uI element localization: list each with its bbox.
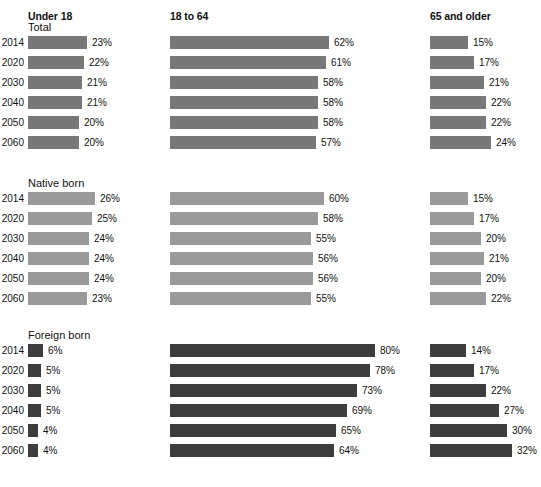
bar-value-native-born-18-to-64-2060: 55% — [316, 293, 336, 304]
bar-value-total-65-and-older-2060: 24% — [496, 137, 516, 148]
bar-foreign-born-under-18-2040 — [28, 404, 41, 417]
bar-native-born-18-to-64-2040 — [170, 252, 313, 265]
group-label-total: Total — [28, 21, 51, 33]
group-label-foreign-born: Foreign born — [28, 329, 90, 341]
year-label-foreign-born-2020: 2020 — [0, 365, 24, 376]
year-label-foreign-born-2030: 2030 — [0, 385, 24, 396]
bar-value-foreign-born-65-and-older-2050: 30% — [512, 425, 532, 436]
bar-native-born-under-18-2050 — [28, 272, 89, 285]
population-age-distribution-chart: Under 1818 to 6465 and olderTotal201423%… — [0, 0, 541, 487]
bar-native-born-65-and-older-2060 — [430, 292, 486, 305]
bar-value-total-under-18-2030: 21% — [87, 77, 107, 88]
bar-value-foreign-born-under-18-2020: 5% — [46, 365, 60, 376]
bar-foreign-born-18-to-64-2030 — [170, 384, 357, 397]
year-label-foreign-born-2060: 2060 — [0, 445, 24, 456]
bar-value-foreign-born-65-and-older-2014: 14% — [471, 345, 491, 356]
bar-foreign-born-18-to-64-2020 — [170, 364, 370, 377]
bar-foreign-born-65-and-older-2020 — [430, 364, 474, 377]
bar-value-native-born-under-18-2020: 25% — [97, 213, 117, 224]
bar-native-born-under-18-2030 — [28, 232, 89, 245]
bar-value-total-under-18-2020: 22% — [89, 57, 109, 68]
bar-foreign-born-18-to-64-2014 — [170, 344, 375, 357]
bar-total-18-to-64-2040 — [170, 96, 318, 109]
bar-value-total-65-and-older-2014: 15% — [473, 37, 493, 48]
bar-foreign-born-65-and-older-2014 — [430, 344, 466, 357]
bar-value-total-under-18-2014: 23% — [92, 37, 112, 48]
bar-total-18-to-64-2020 — [170, 56, 326, 69]
bar-value-total-under-18-2050: 20% — [84, 117, 104, 128]
bar-value-native-born-18-to-64-2014: 60% — [329, 193, 349, 204]
bar-value-foreign-born-18-to-64-2040: 69% — [352, 405, 372, 416]
bar-native-born-65-and-older-2014 — [430, 192, 468, 205]
bar-native-born-18-to-64-2050 — [170, 272, 313, 285]
year-label-foreign-born-2040: 2040 — [0, 405, 24, 416]
bar-foreign-born-under-18-2014 — [28, 344, 43, 357]
bar-total-under-18-2040 — [28, 96, 82, 109]
bar-foreign-born-65-and-older-2030 — [430, 384, 486, 397]
bar-total-under-18-2020 — [28, 56, 84, 69]
bar-foreign-born-65-and-older-2060 — [430, 444, 512, 457]
bar-foreign-born-under-18-2020 — [28, 364, 41, 377]
column-header-18-to-64: 18 to 64 — [170, 10, 208, 22]
year-label-total-2060: 2060 — [0, 137, 24, 148]
bar-total-65-and-older-2014 — [430, 36, 468, 49]
bar-native-born-18-to-64-2020 — [170, 212, 318, 225]
bar-value-foreign-born-65-and-older-2040: 27% — [504, 405, 524, 416]
column-header-65-and-older: 65 and older — [430, 10, 491, 22]
year-label-total-2050: 2050 — [0, 117, 24, 128]
bar-total-65-and-older-2030 — [430, 76, 484, 89]
bar-value-foreign-born-under-18-2030: 5% — [46, 385, 60, 396]
bar-value-native-born-65-and-older-2020: 17% — [479, 213, 499, 224]
bar-value-foreign-born-under-18-2050: 4% — [43, 425, 57, 436]
bar-total-under-18-2060 — [28, 136, 79, 149]
bar-total-18-to-64-2014 — [170, 36, 329, 49]
bar-value-total-65-and-older-2030: 21% — [489, 77, 509, 88]
bar-value-native-born-under-18-2040: 24% — [94, 253, 114, 264]
bar-value-total-under-18-2060: 20% — [84, 137, 104, 148]
year-label-total-2040: 2040 — [0, 97, 24, 108]
bar-value-native-born-under-18-2060: 23% — [92, 293, 112, 304]
bar-total-18-to-64-2060 — [170, 136, 316, 149]
year-label-total-2014: 2014 — [0, 37, 24, 48]
bar-native-born-65-and-older-2020 — [430, 212, 474, 225]
year-label-native-born-2050: 2050 — [0, 273, 24, 284]
bar-value-total-18-to-64-2050: 58% — [323, 117, 343, 128]
bar-native-born-under-18-2020 — [28, 212, 92, 225]
bar-foreign-born-65-and-older-2050 — [430, 424, 507, 437]
bar-foreign-born-65-and-older-2040 — [430, 404, 499, 417]
bar-total-under-18-2050 — [28, 116, 79, 129]
bar-value-total-65-and-older-2050: 22% — [491, 117, 511, 128]
bar-value-foreign-born-18-to-64-2020: 78% — [375, 365, 395, 376]
bar-value-native-born-18-to-64-2030: 55% — [316, 233, 336, 244]
bar-value-foreign-born-65-and-older-2060: 32% — [517, 445, 537, 456]
bar-native-born-under-18-2014 — [28, 192, 95, 205]
year-label-foreign-born-2014: 2014 — [0, 345, 24, 356]
bar-total-65-and-older-2050 — [430, 116, 486, 129]
bar-value-foreign-born-under-18-2060: 4% — [43, 445, 57, 456]
bar-native-born-65-and-older-2040 — [430, 252, 484, 265]
year-label-foreign-born-2050: 2050 — [0, 425, 24, 436]
bar-total-under-18-2030 — [28, 76, 82, 89]
year-label-native-born-2060: 2060 — [0, 293, 24, 304]
bar-value-native-born-65-and-older-2050: 20% — [486, 273, 506, 284]
bar-total-65-and-older-2060 — [430, 136, 491, 149]
bar-value-foreign-born-18-to-64-2050: 65% — [341, 425, 361, 436]
bar-value-foreign-born-65-and-older-2030: 22% — [491, 385, 511, 396]
year-label-total-2020: 2020 — [0, 57, 24, 68]
bar-value-total-18-to-64-2040: 58% — [323, 97, 343, 108]
bar-value-total-18-to-64-2030: 58% — [323, 77, 343, 88]
bar-native-born-under-18-2040 — [28, 252, 89, 265]
bar-value-native-born-65-and-older-2014: 15% — [473, 193, 493, 204]
bar-value-native-born-65-and-older-2060: 22% — [491, 293, 511, 304]
bar-value-native-born-65-and-older-2040: 21% — [489, 253, 509, 264]
bar-value-foreign-born-under-18-2040: 5% — [46, 405, 60, 416]
bar-value-total-under-18-2040: 21% — [87, 97, 107, 108]
bar-total-65-and-older-2020 — [430, 56, 474, 69]
bar-native-born-under-18-2060 — [28, 292, 87, 305]
bar-value-foreign-born-under-18-2014: 6% — [48, 345, 62, 356]
year-label-native-born-2020: 2020 — [0, 213, 24, 224]
bar-value-total-65-and-older-2040: 22% — [491, 97, 511, 108]
bar-native-born-18-to-64-2060 — [170, 292, 311, 305]
bar-foreign-born-under-18-2030 — [28, 384, 41, 397]
bar-foreign-born-under-18-2050 — [28, 424, 38, 437]
